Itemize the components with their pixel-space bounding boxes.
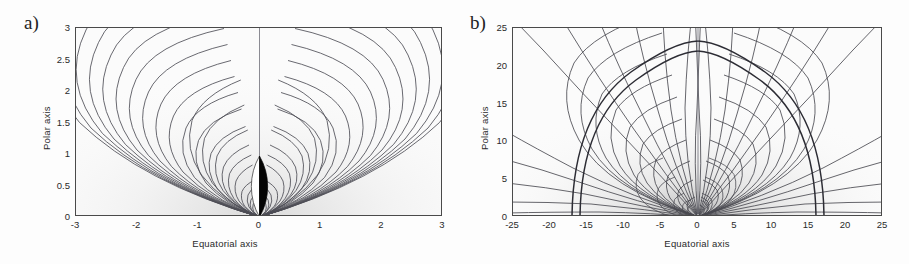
panel-b-xtick-6: 5 — [731, 219, 736, 230]
panel-a-xtick-0: -3 — [71, 219, 79, 230]
panel-b-xlabel: Equatorial axis — [664, 238, 729, 249]
panel-b-xtick-1: -20 — [542, 219, 556, 230]
panel-b-xtick-2: -15 — [579, 219, 593, 230]
panel-a-xlabel: Equatorial axis — [192, 238, 257, 249]
panel-a-xtick-1: -2 — [132, 219, 140, 230]
panel-b-ytick-5: 25 — [481, 22, 507, 33]
panel-b-xtick-8: 15 — [803, 219, 814, 230]
panel-b-ytick-0: 0 — [485, 211, 507, 222]
panel-a-ylabel: Polar axis — [41, 106, 52, 150]
panel-a: a) Polar axis Equatorial axis 0 0.5 1 1.… — [0, 0, 455, 264]
panel-a-ytick-2: 1 — [48, 148, 70, 159]
panel-a-ytick-3: 1.5 — [41, 116, 70, 127]
panel-b-ytick-3: 15 — [481, 97, 507, 108]
panel-b: b) Polar axis Equatorial axis 0 5 10 15 … — [455, 0, 909, 264]
panel-a-xtick-2: -1 — [193, 219, 201, 230]
panel-a-xtick-5: 2 — [378, 219, 383, 230]
panel-b-ytick-2: 10 — [481, 135, 507, 146]
panel-a-ytick-1: 0.5 — [41, 179, 70, 190]
panel-b-xtick-4: -5 — [656, 219, 664, 230]
panel-b-xtick-7: 10 — [766, 219, 777, 230]
panel-b-ytick-4: 20 — [481, 59, 507, 70]
panel-a-ytick-4: 2 — [48, 85, 70, 96]
panel-a-ytick-5: 2.5 — [41, 53, 70, 64]
panel-b-xtick-9: 20 — [840, 219, 851, 230]
panel-b-field-plot — [513, 28, 882, 216]
panel-b-xtick-10: 25 — [877, 219, 888, 230]
panel-b-xtick-5: 0 — [694, 219, 699, 230]
panel-a-xtick-6: 3 — [439, 219, 444, 230]
panel-a-plot-area — [75, 27, 442, 216]
panel-b-ytick-1: 5 — [485, 173, 507, 184]
panel-a-xtick-3: 0 — [256, 219, 261, 230]
figure-container: a) Polar axis Equatorial axis 0 0.5 1 1.… — [0, 0, 909, 264]
panel-a-ytick-6: 3 — [48, 22, 70, 33]
panel-a-xtick-4: 1 — [317, 219, 322, 230]
panel-b-plot-area — [512, 27, 882, 216]
panel-a-field-plot — [76, 28, 442, 216]
panel-b-xtick-3: -10 — [616, 219, 630, 230]
panel-a-letter: a) — [24, 12, 39, 34]
panel-a-ytick-0: 0 — [48, 211, 70, 222]
panel-b-xtick-0: -25 — [505, 219, 519, 230]
